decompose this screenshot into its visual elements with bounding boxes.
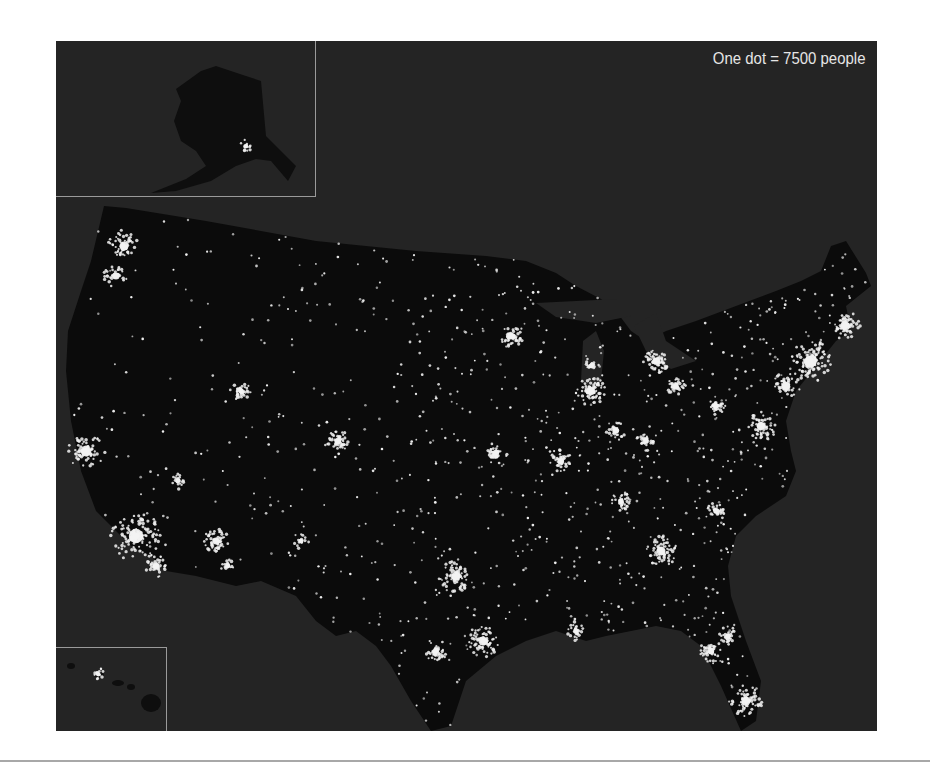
bottom-divider	[0, 760, 930, 762]
hawaii-inset-frame	[56, 647, 167, 731]
map-panel: One dot = 7500 people	[56, 41, 877, 731]
alaska-inset-frame	[56, 41, 316, 197]
map-legend: One dot = 7500 people	[712, 49, 865, 69]
contiguous-us-shape	[66, 206, 871, 731]
